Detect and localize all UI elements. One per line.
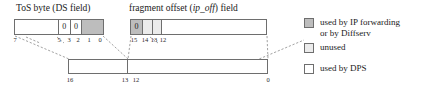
tos-tick-1: 1	[84, 36, 94, 43]
legend-swatch-light	[304, 43, 314, 53]
bottom-cell-0	[69, 60, 128, 73]
frag-cell-0: 0	[131, 20, 143, 34]
combined-field-bar	[68, 59, 268, 74]
tos-byte-field-box: 0 0	[14, 19, 104, 35]
frag-header-prefix: fragment offset (	[129, 3, 193, 13]
legend-label-ip-forwarding: used by IP forwarding or by Diffserv	[320, 17, 400, 38]
legend-item-ip-forwarding: used by IP forwarding or by Diffserv	[304, 17, 432, 38]
bottom-tick-0: 0	[262, 76, 274, 83]
frag-header-suffix: ) field	[215, 3, 238, 13]
frag-cell-3	[162, 20, 266, 34]
tos-tick-2: 2	[73, 36, 83, 43]
legend-item-unused: unused	[304, 42, 432, 53]
tos-tick-7: 7	[10, 36, 20, 43]
frag-cell-2	[153, 20, 162, 34]
diagram-canvas: ToS byte (DS field) 0 0 7 5 3 2 1 0 frag…	[0, 0, 434, 93]
frag-field-header: fragment offset (ip_off) field	[129, 3, 238, 14]
tos-field-header: ToS byte (DS field)	[16, 3, 91, 14]
tos-cell-2: 0	[71, 20, 83, 34]
tos-cell-3	[82, 20, 103, 34]
tos-cell-1: 0	[59, 20, 71, 34]
tos-tick-0: 0	[95, 36, 105, 43]
frag-tick-12: 12	[157, 36, 169, 43]
tos-cell-0	[15, 20, 59, 34]
legend-swatch-white	[304, 64, 314, 74]
legend-swatch-dark	[304, 18, 314, 28]
bottom-tick-12: 12	[130, 76, 142, 83]
legend-item-dps: used by DPS	[304, 63, 432, 74]
legend-label-unused: unused	[320, 42, 346, 53]
tos-tick-5: 5	[54, 36, 64, 43]
fragment-offset-field-box: 0	[130, 19, 267, 35]
bottom-tick-16: 16	[64, 76, 76, 83]
frag-header-italic: ip_off	[193, 3, 215, 13]
bottom-cell-1	[128, 60, 267, 73]
frag-cell-1	[143, 20, 153, 34]
legend-label-dps: used by DPS	[320, 63, 367, 74]
